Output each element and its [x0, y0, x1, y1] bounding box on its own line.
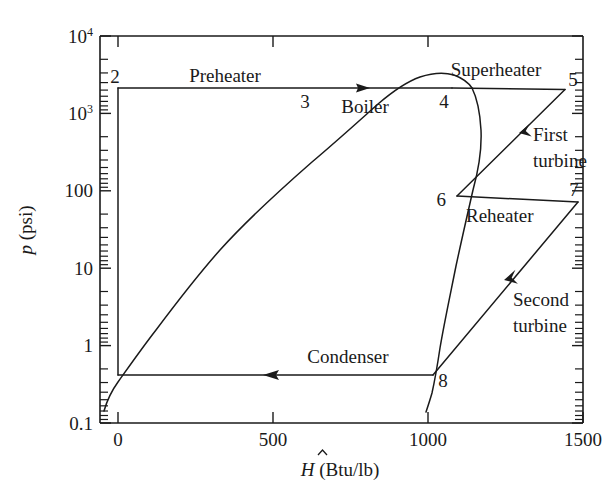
x-tick-label-500: 500 [259, 429, 288, 450]
state-label-2: 2 [110, 66, 120, 87]
svg-text:p (psi): p (psi) [15, 205, 37, 256]
label-condenser: Condenser [307, 346, 389, 367]
y-tick-label-10000-exponent: 4 [87, 25, 93, 39]
x-tick-label-1000: 1000 [409, 429, 447, 450]
y-axis-title-unit: (psi) [15, 205, 37, 245]
label-preheater: Preheater [189, 65, 261, 86]
ph-diagram-figure: 104 103 100 10 1 0.1 0 500 1000 1500 p (… [0, 0, 615, 499]
state-label-4: 4 [439, 91, 449, 112]
label-superheater: Superheater [451, 59, 542, 80]
first-turbine-arrow-icon [518, 124, 532, 139]
svg-text:103: 103 [68, 102, 93, 124]
process-labels: Preheater Boiler Superheater First turbi… [189, 59, 587, 367]
svg-text:104: 104 [68, 25, 93, 47]
y-tick-labels: 104 103 100 10 1 0.1 [65, 25, 94, 434]
state-label-3: 3 [300, 91, 310, 112]
y-axis-title-symbol: p [15, 245, 36, 257]
x-axis-title-hat-accent [318, 450, 327, 455]
saturation-vapor-branch [426, 88, 481, 412]
state-label-5: 5 [568, 69, 578, 90]
label-second-turbine-line2: turbine [513, 315, 567, 336]
x-axis-title-symbol: H [300, 459, 316, 480]
label-second-turbine-line1: Second [513, 289, 569, 310]
state-label-6: 6 [437, 189, 447, 210]
label-first-turbine-line2: turbine [533, 150, 587, 171]
x-axis-title: H (Btu/lb) [300, 450, 380, 481]
svg-text:H (Btu/lb): H (Btu/lb) [300, 459, 380, 481]
y-tick-label-10000-mantissa: 10 [68, 26, 87, 47]
y-axis-title: p (psi) [15, 205, 37, 256]
y-tick-label-0.1: 0.1 [69, 413, 93, 434]
x-tick-labels: 0 500 1000 1500 [113, 429, 602, 450]
x-axis-title-unit: (Btu/lb) [314, 459, 379, 481]
state-label-7: 7 [569, 179, 579, 200]
y-tick-label-100: 100 [65, 180, 94, 201]
right-axis-ticks [572, 36, 583, 423]
y-tick-label-1000-mantissa: 10 [68, 103, 87, 124]
y-axis-major-ticks [100, 36, 111, 423]
rankine-cycle-chart: 104 103 100 10 1 0.1 0 500 1000 1500 p (… [0, 0, 615, 499]
state-label-8: 8 [438, 370, 448, 391]
x-tick-label-1500: 1500 [564, 429, 602, 450]
label-reheater: Reheater [466, 205, 534, 226]
label-boiler: Boiler [341, 96, 389, 117]
reheater-line [457, 196, 578, 202]
saturation-dome-curve [104, 73, 472, 411]
y-tick-label-1000-exponent: 3 [87, 102, 93, 116]
x-tick-label-0: 0 [113, 429, 123, 450]
y-tick-label-1: 1 [84, 335, 94, 356]
superheater-line [452, 88, 565, 90]
boiler-arrow-icon [356, 84, 370, 93]
label-first-turbine-line1: First [533, 124, 569, 145]
y-tick-label-10: 10 [74, 258, 93, 279]
